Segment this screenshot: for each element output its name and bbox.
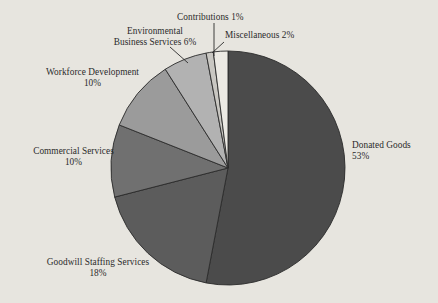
slice-label-commercial-services: Commercial Services 10% xyxy=(16,146,131,169)
slice-label-donated-line2: 53% xyxy=(352,151,411,162)
slice-label-goodwill-line1: Goodwill Staffing Services xyxy=(28,257,168,268)
slice-label-workforce-line1: Workforce Development xyxy=(35,67,150,78)
slice-label-workforce-development: Workforce Development 10% xyxy=(35,67,150,90)
slice-label-workforce-line2: 10% xyxy=(35,78,150,89)
slice-label-donated-goods: Donated Goods 53% xyxy=(352,140,411,163)
slice-label-environmental-line2: Business Services 6% xyxy=(95,37,215,48)
slice-label-miscellaneous-line1: Miscellaneous 2% xyxy=(225,30,294,41)
slice-label-environmental-business-services: Environmental Business Services 6% xyxy=(95,26,215,49)
slice-label-donated-line1: Donated Goods xyxy=(352,140,411,151)
slice-label-miscellaneous: Miscellaneous 2% xyxy=(225,30,294,41)
pie-chart: Contributions 1% Miscellaneous 2% Enviro… xyxy=(0,0,438,303)
slice-label-contributions-line1: Contributions 1% xyxy=(177,12,244,23)
slice-label-environmental-line1: Environmental xyxy=(95,26,215,37)
slice-label-commercial-line2: 10% xyxy=(16,157,131,168)
slice-label-contributions: Contributions 1% xyxy=(177,12,244,23)
slice-label-goodwill-line2: 18% xyxy=(28,268,168,279)
leader-line-environmental xyxy=(170,47,188,63)
slice-label-commercial-line1: Commercial Services xyxy=(16,146,131,157)
slice-label-goodwill-staffing-services: Goodwill Staffing Services 18% xyxy=(28,257,168,280)
